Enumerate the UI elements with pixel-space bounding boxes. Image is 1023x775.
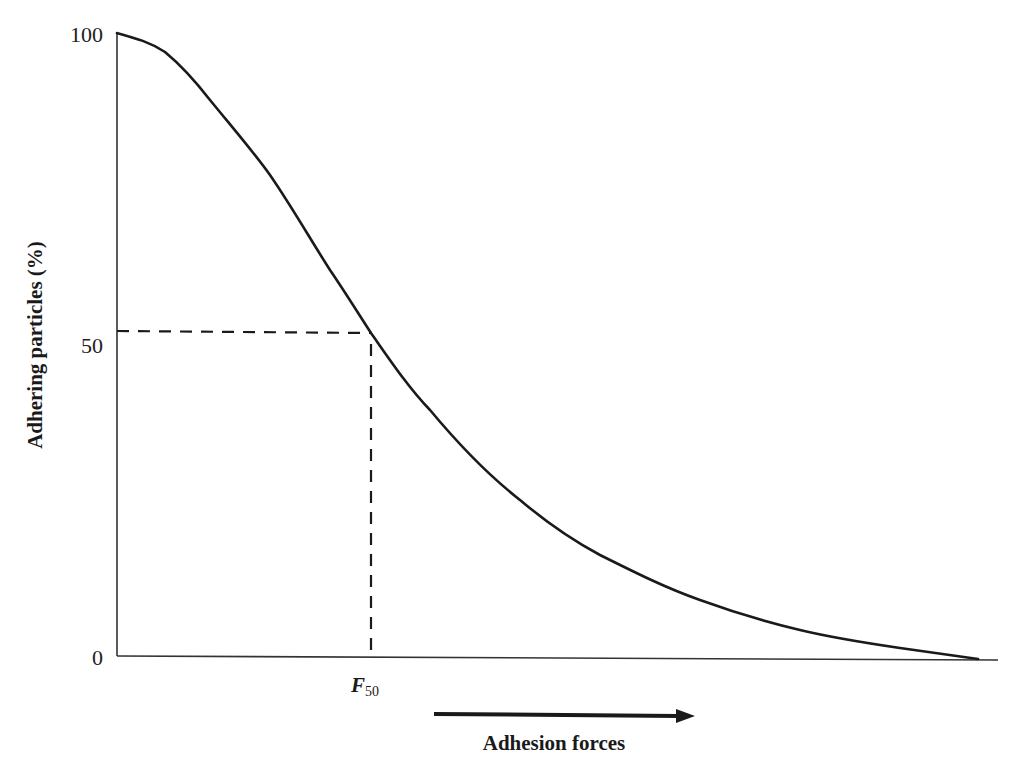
adhesion-curve (117, 33, 978, 659)
adhesion-chart: 100 50 0 Adhering particles (%) F50 Adhe… (0, 0, 1023, 775)
y-tick-0: 0 (92, 645, 103, 670)
y-tick-50: 50 (81, 333, 103, 358)
y-tick-100: 100 (70, 22, 103, 47)
x-direction-arrow-line (434, 714, 678, 716)
y-axis-title: Adhering particles (%) (23, 241, 47, 449)
arrow-head-icon (676, 709, 695, 723)
f50-horizontal-dashed-line (117, 331, 372, 333)
x-axis (117, 656, 998, 660)
x-axis-title: Adhesion forces (483, 731, 626, 755)
f50-label: F50 (350, 673, 379, 699)
